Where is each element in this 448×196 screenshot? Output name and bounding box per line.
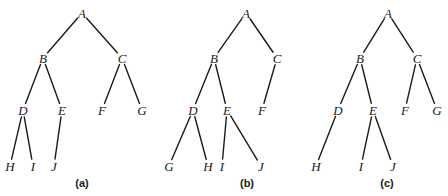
tree-caption: (c) [380, 177, 394, 189]
edge-A-C [392, 19, 413, 52]
edge-A-C [250, 19, 273, 52]
node-B: B [39, 51, 47, 66]
edge-E-J [375, 117, 390, 160]
edge-B-D [341, 64, 358, 103]
node-A: A [241, 6, 250, 21]
tree-c: ABCDEFGHIJ(c) [310, 6, 442, 190]
node-J: J [51, 159, 58, 174]
node-B: B [210, 51, 218, 66]
edge-A-B [364, 19, 385, 52]
edge-E-I [362, 117, 371, 159]
node-D: D [187, 103, 198, 118]
tree-caption: (a) [75, 177, 89, 189]
edge-E-I [223, 117, 227, 159]
edge-C-G [125, 65, 140, 104]
edge-E-J [55, 117, 61, 159]
node-I: I [30, 159, 36, 174]
edge-A-C [87, 18, 118, 53]
edge-D-G [172, 116, 190, 159]
node-C: C [413, 51, 422, 66]
node-J: J [258, 159, 265, 174]
edge-B-D [196, 64, 212, 103]
tree-caption: (b) [240, 177, 254, 189]
edge-D-I [24, 117, 32, 159]
node-G: G [137, 103, 147, 118]
node-C: C [273, 51, 282, 66]
node-F: F [97, 103, 107, 118]
node-G: G [432, 103, 442, 118]
node-A: A [77, 6, 86, 21]
edge-B-D [26, 65, 41, 104]
edge-C-F [407, 65, 416, 103]
edge-A-B [48, 18, 78, 52]
node-J: J [390, 159, 397, 174]
edge-D-H [12, 117, 22, 159]
edge-A-B [218, 19, 242, 53]
edge-C-G [420, 65, 435, 104]
node-E: E [222, 103, 231, 118]
edge-B-E [362, 65, 372, 103]
edge-C-F [264, 65, 275, 104]
tree-a: ABCDEFGHIJ(a) [4, 6, 147, 190]
node-B: B [356, 51, 364, 66]
edge-B-E [45, 65, 59, 104]
node-E: E [57, 103, 66, 118]
node-I: I [358, 159, 364, 174]
edge-E-J [231, 116, 258, 160]
node-G: G [164, 159, 174, 174]
node-I: I [219, 159, 225, 174]
node-F: F [257, 103, 267, 118]
tree-b: ABCDEFGHIJ(b) [164, 6, 281, 190]
edge-D-H [319, 117, 336, 160]
node-H: H [4, 159, 15, 174]
node-D: D [332, 103, 343, 118]
node-E: E [368, 103, 377, 118]
node-D: D [17, 103, 28, 118]
edge-C-F [105, 65, 120, 104]
binary-trees-diagram: ABCDEFGHIJ(a) ABCDEFGHIJ(b) ABCDEFGHIJ(c… [0, 0, 448, 196]
node-F: F [400, 103, 410, 118]
node-C: C [118, 51, 127, 66]
node-A: A [383, 6, 392, 21]
edge-B-E [216, 65, 226, 103]
edge-D-H [195, 117, 206, 159]
node-H: H [202, 159, 213, 174]
node-H: H [310, 159, 321, 174]
